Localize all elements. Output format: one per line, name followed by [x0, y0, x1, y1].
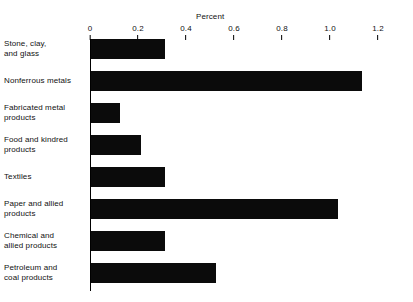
bar — [91, 39, 165, 59]
x-axis-tick-label: 0 — [88, 24, 93, 33]
bar — [91, 167, 165, 187]
category-label-line: Chemical and — [4, 231, 82, 241]
x-axis-tick-label: 0.4 — [180, 24, 192, 33]
category-label: Fabricated metalproducts — [4, 103, 82, 123]
bar — [91, 231, 165, 251]
category-label-line: products — [4, 113, 82, 123]
category-label: Textiles — [4, 172, 82, 182]
x-axis-tick: 0.6 — [228, 24, 240, 40]
category-label: Chemical andallied products — [4, 231, 82, 251]
bar-row — [91, 263, 216, 283]
x-axis-tick: 1.2 — [372, 24, 384, 40]
bar — [91, 199, 338, 219]
category-label-line: Paper and allied — [4, 199, 82, 209]
category-label-line: Petroleum and — [4, 263, 82, 273]
category-label-line: Food and kindred — [4, 135, 82, 145]
category-label-line: and glass — [4, 49, 82, 59]
x-axis-tick-label: 1.0 — [324, 24, 336, 33]
category-label-line: Nonferrous metals — [4, 76, 82, 86]
bar-row — [91, 135, 141, 155]
x-axis-title: Percent — [196, 12, 224, 21]
plot-area — [90, 39, 390, 291]
category-label-line: Fabricated metal — [4, 103, 82, 113]
category-label-line: Stone, clay, — [4, 39, 82, 49]
x-axis-tick: 0.2 — [132, 24, 144, 40]
x-axis-tick-label: 1.2 — [372, 24, 384, 33]
bar — [91, 263, 216, 283]
bar — [91, 103, 120, 123]
x-axis-tick: 1.0 — [324, 24, 336, 40]
x-axis-tick: 0.4 — [180, 24, 192, 40]
category-label: Nonferrous metals — [4, 76, 82, 86]
bar-row — [91, 39, 165, 59]
category-label-line: products — [4, 145, 82, 155]
category-label-line: Textiles — [4, 172, 82, 182]
x-axis-tick-label: 0.8 — [276, 24, 288, 33]
bar — [91, 135, 141, 155]
bar-row — [91, 71, 362, 91]
category-label: Stone, clay,and glass — [4, 39, 82, 59]
bar-chart: Percent 00.20.40.60.81.01.2 Stone, clay,… — [0, 0, 413, 302]
category-label-line: products — [4, 209, 82, 219]
category-label-line: coal products — [4, 273, 82, 283]
category-label: Food and kindredproducts — [4, 135, 82, 155]
bar-row — [91, 103, 120, 123]
x-axis-tick-label: 0.6 — [228, 24, 240, 33]
category-label-line: allied products — [4, 241, 82, 251]
bar-row — [91, 199, 338, 219]
category-label: Petroleum andcoal products — [4, 263, 82, 283]
bar — [91, 71, 362, 91]
x-axis-tick: 0.8 — [276, 24, 288, 40]
category-label: Paper and alliedproducts — [4, 199, 82, 219]
x-axis-tick-label: 0.2 — [132, 24, 144, 33]
bar-row — [91, 167, 165, 187]
x-axis-tick: 0 — [88, 24, 93, 40]
bar-row — [91, 231, 165, 251]
